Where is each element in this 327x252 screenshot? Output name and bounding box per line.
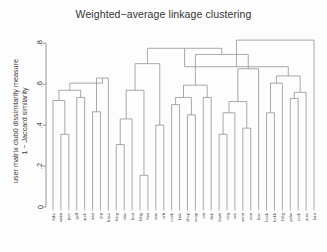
dendrogram-link [184, 85, 208, 97]
dendrogram-link [135, 64, 160, 125]
leaf-label: fish [209, 212, 214, 219]
leaf-label: sew [153, 213, 158, 220]
leaf-label: rom [248, 212, 253, 220]
dendrogram-link [223, 113, 235, 207]
dendrogram-link [238, 69, 259, 207]
leaf-label: arch [82, 212, 87, 221]
leaf-label: bing [114, 212, 119, 220]
dendrogram-links [53, 40, 314, 207]
dendrogram-link [172, 105, 180, 207]
dendrogram-link [290, 98, 298, 207]
leaf-label: base [106, 212, 111, 222]
leaf-label: polw [288, 213, 293, 221]
leaf-label: bskb [272, 212, 277, 221]
leaf-label: shop [185, 212, 190, 222]
dendrogram-link [120, 119, 132, 207]
dendrogram-plot: 0.2.4.6.8bikeswimjazzgolfarchdartjogbase… [0, 0, 327, 252]
leaf-label: hist [145, 212, 150, 219]
dendrogram-link [126, 90, 144, 175]
leaf-label: west [240, 212, 245, 221]
leaf-label: dart [90, 212, 95, 220]
leaf-label: bird [312, 212, 317, 220]
leaf-label: cook [169, 212, 174, 222]
dendrogram-link [276, 76, 300, 92]
leaf-label: kids [177, 213, 182, 220]
leaf-label: crft [161, 212, 166, 219]
leaf-label: golf [74, 212, 79, 219]
y-axis-tick-label: .6 [36, 81, 45, 87]
dendrogram-link [243, 128, 251, 207]
leaf-label: rock [296, 212, 301, 221]
dendrogram-link [140, 175, 148, 207]
leaf-label: hock [264, 212, 269, 222]
dendrogram-link [53, 101, 65, 207]
leaf-label: jazz [66, 213, 71, 221]
dendrogram-link [61, 134, 69, 207]
dendrogram-link [176, 97, 192, 114]
dendrogram-link [195, 54, 248, 85]
dendrogram-link [271, 83, 283, 207]
leaf-label: clas [122, 213, 127, 220]
dendrogram-link [97, 78, 109, 207]
leaf-label: fshg [280, 212, 285, 220]
leaf-label: bike [51, 212, 56, 220]
dendrogram-link [93, 112, 101, 207]
dendrogram-link [116, 145, 124, 207]
dendrogram-link [187, 115, 195, 207]
dendrogram-link [294, 92, 306, 207]
dendrogram-link [229, 102, 247, 129]
leaf-label: swim [58, 212, 63, 222]
y-axis-tick-label: .8 [36, 40, 45, 46]
leaf-label: soap [193, 212, 198, 222]
dendrogram-link [77, 97, 85, 207]
leaf-label: bbig [138, 212, 143, 220]
leaf-label: jog [98, 212, 103, 219]
dendrogram-link [219, 134, 227, 207]
leaf-labels: bikeswimjazzgolfarchdartjogbasebingclasf… [51, 207, 317, 222]
dendrogram-link [267, 113, 275, 207]
y-axis-tick-label: 0 [36, 205, 45, 209]
y-axis-tick-label: .2 [36, 163, 45, 169]
leaf-label: foot [130, 212, 135, 220]
leaf-label: auto [304, 212, 309, 221]
dendrogram-link [70, 78, 103, 90]
dendrogram-link [203, 97, 211, 207]
leaf-label: horr [256, 212, 261, 220]
dendrogram-link [156, 125, 164, 207]
y-axis-tick-label: .4 [36, 122, 45, 128]
leaf-label: dog [225, 212, 230, 220]
leaf-label: crtr [232, 212, 237, 219]
leaf-label: cat [201, 212, 206, 218]
dendrogram-figure: Weighted−average linkage clustering user… [0, 0, 327, 252]
dendrogram-link [59, 90, 81, 100]
leaf-label: bowl [217, 213, 222, 222]
